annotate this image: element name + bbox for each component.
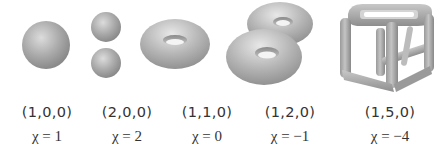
torus-shape	[140, 19, 210, 69]
chi-symbol: χ	[271, 128, 278, 144]
chi-value: = 1	[42, 128, 62, 144]
cube-frame-shape	[340, 4, 434, 92]
euler-characteristic-3: χ = 0	[160, 128, 254, 145]
two-spheres-shape	[91, 12, 121, 78]
chi-value: = 0	[202, 128, 222, 144]
surfaces-figure	[0, 0, 443, 100]
chi-symbol: χ	[112, 128, 119, 144]
chi-value: = −4	[381, 128, 409, 144]
double-torus-shape	[226, 2, 313, 85]
sphere-shape	[22, 21, 70, 69]
chi-symbol: χ	[32, 128, 39, 144]
chi-symbol: χ	[371, 128, 378, 144]
tuple-label-3: (1,1,0)	[160, 104, 254, 120]
tuple-label-4: (1,2,0)	[243, 104, 337, 120]
tuple-label-5: (1,5,0)	[343, 104, 437, 120]
chi-symbol: χ	[192, 128, 199, 144]
chi-value: = −1	[281, 128, 309, 144]
euler-characteristic-4: χ = −1	[243, 128, 337, 145]
euler-characteristic-5: χ = −4	[343, 128, 437, 145]
chi-value: = 2	[122, 128, 142, 144]
